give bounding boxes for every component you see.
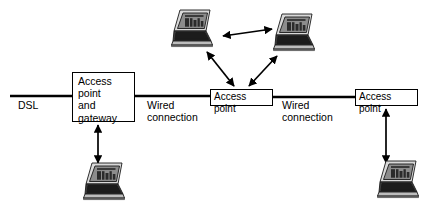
- laptop-icon-top-right[interactable]: [268, 11, 320, 53]
- wireless-link-ap-middle-laptop-top-left: [207, 52, 234, 86]
- laptop-icon-bottom-right[interactable]: [372, 158, 424, 200]
- node-access-point-middle[interactable]: Access point: [210, 89, 273, 106]
- wireless-link-laptop-to-laptop: [223, 29, 272, 36]
- node-access-point-right[interactable]: Access point: [355, 89, 418, 106]
- node-access-point-and-gateway[interactable]: Access point and gateway: [72, 72, 135, 122]
- wireless-link-ap-middle-laptop-top-right: [249, 56, 277, 86]
- laptop-icon-top-left[interactable]: [166, 7, 218, 49]
- network-diagram: Access point and gateway Access point Ac…: [0, 0, 444, 217]
- laptop-icon-bottom-left[interactable]: [78, 160, 130, 202]
- edge-label-wired-connection-1: Wired connection: [147, 99, 198, 124]
- edge-label-wired-connection-2: Wired connection: [282, 99, 333, 124]
- edge-label-dsl: DSL: [18, 99, 38, 111]
